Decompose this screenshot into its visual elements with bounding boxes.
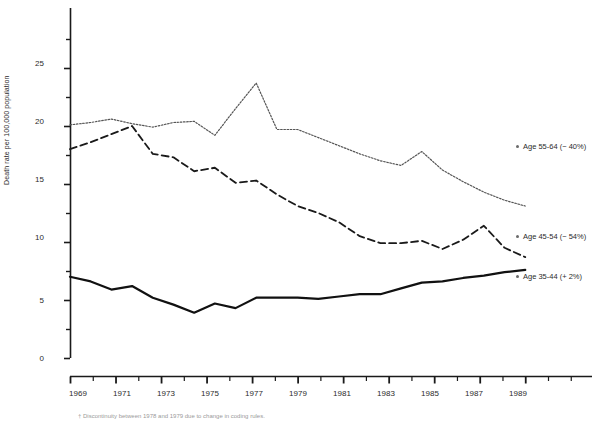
series-line-age-45-54 bbox=[70, 126, 525, 257]
chart-axes bbox=[64, 8, 592, 384]
chart-container: Death rate per 100,000 population 25 20 … bbox=[0, 0, 605, 422]
series-line-age-55-64 bbox=[70, 83, 525, 206]
chart-plot-area bbox=[0, 0, 605, 422]
chart-series bbox=[70, 83, 525, 313]
series-line-age-35-44 bbox=[70, 270, 525, 313]
